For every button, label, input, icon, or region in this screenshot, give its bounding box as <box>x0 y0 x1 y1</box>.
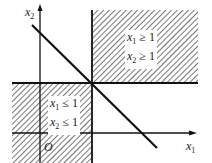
constraint-x2-le-1: x2 ≤ 1 <box>50 115 78 134</box>
x2-axis-label: x2 <box>25 6 34 23</box>
region-upper-right-label: x1 ≥ 1 x2 ≥ 1 <box>125 30 157 69</box>
x1-sub: 1 <box>191 146 195 155</box>
relation: ≤ 1 <box>59 96 78 110</box>
origin-text: O <box>44 140 53 154</box>
relation: ≥ 1 <box>136 30 155 44</box>
x1-axis-arrow-icon <box>189 131 197 136</box>
x1-axis-label: x1 <box>186 140 195 157</box>
constraint-x2-ge-1: x2 ≥ 1 <box>127 49 155 68</box>
region-lower-left-label: x1 ≤ 1 x2 ≤ 1 <box>48 96 80 135</box>
x2-axis-arrow-icon <box>38 4 43 11</box>
diagram-canvas <box>0 0 212 163</box>
constraint-x1-le-1: x1 ≤ 1 <box>50 96 78 115</box>
origin-label: O <box>44 141 53 154</box>
constraint-x1-ge-1: x1 ≥ 1 <box>127 30 155 49</box>
relation: ≤ 1 <box>59 115 78 129</box>
relation: ≥ 1 <box>136 49 155 63</box>
x2-sub: 2 <box>30 12 34 21</box>
